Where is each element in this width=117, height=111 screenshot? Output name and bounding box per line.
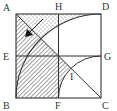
label-d: D [102,1,109,12]
label-a: A [3,2,11,13]
label-b: B [3,100,10,111]
geometry-diagram: A H D E G B F C I [0,0,117,111]
label-i: I [70,71,73,82]
label-e: E [3,51,9,62]
label-f: F [55,100,61,111]
label-h: H [55,1,62,12]
label-c: C [102,100,109,111]
label-g: G [104,51,111,62]
